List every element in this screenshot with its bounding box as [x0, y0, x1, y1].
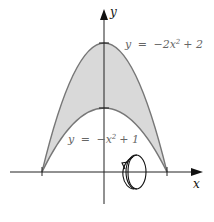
x-axis-arrow-icon: [191, 168, 203, 176]
x-axis-label: x: [193, 177, 200, 191]
y-axis-label: y: [109, 5, 117, 19]
y-axis-arrow-icon: [100, 9, 108, 20]
inner-curve-label: y = −x2+ 1: [67, 133, 139, 146]
diagram-canvas: y x y = −2x2+ 2 y = −x2+ 1: [0, 0, 214, 222]
outer-curve-label: y = −2x2+ 2: [124, 38, 203, 51]
